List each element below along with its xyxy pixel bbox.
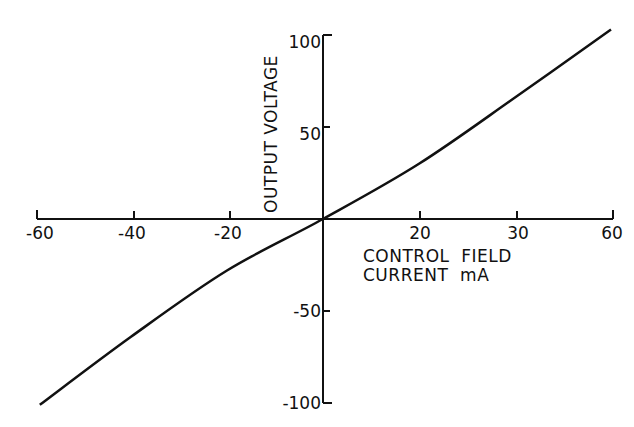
x-tick-label: -40 [118, 223, 146, 243]
chart-canvas: -60 -40 -20 20 30 60 100 50 -50 -100 OUT… [0, 0, 634, 427]
x-axis: -60 -40 -20 20 30 60 [26, 210, 623, 243]
x-tick-label: 30 [507, 223, 529, 243]
y-axis: 100 50 -50 -100 [282, 32, 332, 413]
y-tick-label: 50 [299, 124, 321, 144]
y-tick-label: 100 [289, 32, 321, 52]
y-tick-label: -50 [293, 301, 321, 321]
y-tick-label: -100 [282, 393, 321, 413]
x-tick-label: 20 [409, 223, 431, 243]
x-tick-label: 60 [601, 223, 623, 243]
x-axis-title-line1: CONTROL FIELD [363, 246, 512, 266]
data-line [40, 29, 611, 404]
x-tick-label: -60 [26, 223, 54, 243]
x-axis-title-line2: CURRENT mA [363, 265, 489, 285]
y-axis-title: OUTPUT VOLTAGE [261, 55, 281, 213]
x-tick-label: -20 [214, 223, 242, 243]
